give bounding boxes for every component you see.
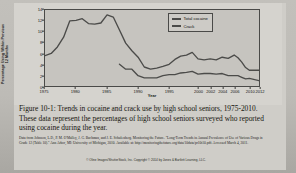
- y-tick-mark: [42, 64, 44, 65]
- series-layer: [45, 15, 259, 81]
- x-tick-mark: [75, 87, 76, 89]
- series-line: [45, 15, 259, 70]
- figure-container: Percentage Using Within Previous 12 Mont…: [14, 3, 282, 105]
- x-tick-mark: [198, 87, 199, 89]
- legend-swatch-icon: [172, 18, 181, 19]
- figure-source-note: Data from Johnson, L.D., P. M. O'Malley,…: [19, 136, 271, 146]
- x-tick-mark: [169, 87, 170, 89]
- y-tick-mark: [42, 53, 44, 54]
- legend-item-crack: Crack: [172, 24, 208, 29]
- y-axis-title: Percentage Using Within Previous 12 Mont…: [1, 23, 10, 85]
- plot-svg: [45, 10, 259, 86]
- y-tick-mark: [42, 20, 44, 21]
- y-tick-mark: [42, 9, 44, 10]
- x-axis-title: Year: [44, 93, 260, 98]
- legend-label: Crack: [183, 24, 194, 29]
- x-tick-mark: [106, 87, 107, 89]
- figure-copyright: © Oline Images/ShutterStock, Inc. Copyri…: [19, 158, 273, 162]
- y-tick-mark: [42, 42, 44, 43]
- figure-caption: Figure 10-1: Trends in cocaine and crack…: [19, 104, 273, 133]
- plot-area: [44, 9, 260, 87]
- x-tick-mark: [260, 87, 261, 89]
- legend-label: Total cocaine: [183, 16, 207, 21]
- x-tick-mark: [250, 87, 251, 89]
- x-tick-mark: [210, 87, 211, 89]
- x-tick-mark: [235, 87, 236, 89]
- chart-legend: Total cocaine Crack: [168, 13, 213, 32]
- legend-item-total-cocaine: Total cocaine: [172, 16, 208, 21]
- x-tick-mark: [138, 87, 139, 89]
- chart: Percentage Using Within Previous 12 Mont…: [18, 5, 278, 105]
- y-tick-mark: [42, 76, 44, 77]
- x-tick-mark: [223, 87, 224, 89]
- series-line: [119, 64, 259, 80]
- figure-page: Percentage Using Within Previous 12 Mont…: [0, 0, 296, 173]
- y-tick-mark: [42, 31, 44, 32]
- legend-swatch-icon: [172, 25, 181, 26]
- x-tick-mark: [44, 87, 45, 89]
